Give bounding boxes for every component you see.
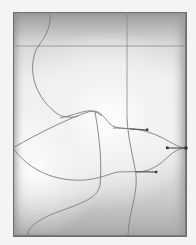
mesh-column-curve-left[interactable]: [33, 12, 78, 117]
direction-handle-point[interactable]: [166, 147, 169, 150]
direction-handle-point[interactable]: [155, 171, 157, 173]
mesh-curve-right-lower[interactable]: [136, 148, 186, 172]
mesh-curve-right-upper[interactable]: [113, 128, 186, 148]
mesh-column-curve-right[interactable]: [127, 118, 136, 236]
direction-handle-line: [130, 129, 147, 130]
mesh-column-curve-center[interactable]: [27, 112, 101, 236]
direction-handle-point[interactable]: [146, 129, 148, 131]
mesh-anchor-point[interactable]: [185, 147, 188, 150]
artboard-canvas[interactable]: [0, 0, 196, 245]
mesh-grid[interactable]: [0, 0, 196, 245]
